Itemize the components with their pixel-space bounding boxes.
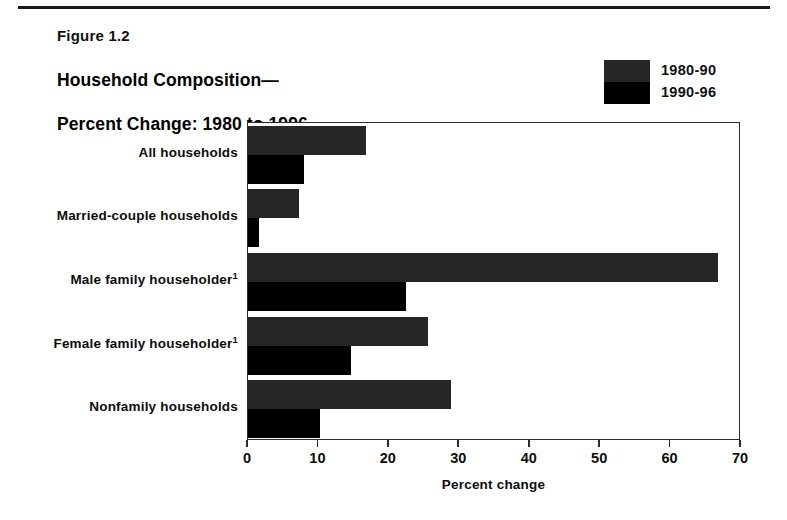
bar-female-family-householder-1980-90 bbox=[248, 317, 428, 346]
x-tick-mark-50 bbox=[598, 440, 600, 447]
x-tick-mark-10 bbox=[317, 440, 319, 447]
x-tick-mark-30 bbox=[457, 440, 459, 447]
x-axis-title: Percent change bbox=[247, 477, 740, 492]
top-rule-divider bbox=[18, 6, 770, 9]
category-label-married-couple-households: Married-couple households bbox=[0, 208, 238, 223]
bar-male-family-householder-1980-90 bbox=[248, 253, 718, 282]
bar-nonfamily-households-1990-96 bbox=[248, 409, 320, 438]
x-tick-label-40: 40 bbox=[509, 450, 549, 466]
x-tick-label-30: 30 bbox=[438, 450, 478, 466]
x-tick-mark-40 bbox=[528, 440, 530, 447]
bar-all-households-1990-96 bbox=[248, 155, 304, 184]
bar-nonfamily-households-1980-90 bbox=[248, 380, 451, 409]
x-tick-label-70: 70 bbox=[720, 450, 760, 466]
figure-container: Figure 1.2 Household Composition— Percen… bbox=[0, 0, 787, 520]
category-label-all-households: All households bbox=[0, 145, 238, 160]
x-tick-mark-20 bbox=[387, 440, 389, 447]
x-tick-label-0: 0 bbox=[227, 450, 267, 466]
x-tick-label-60: 60 bbox=[650, 450, 690, 466]
x-tick-mark-60 bbox=[669, 440, 671, 447]
category-axis-labels: All householdsMarried-couple householdsM… bbox=[0, 122, 238, 440]
figure-title-line-1: Household Composition— bbox=[57, 69, 487, 91]
x-tick-mark-0 bbox=[246, 440, 248, 447]
figure-number: Figure 1.2 bbox=[57, 26, 487, 45]
legend-swatch-1980-90 bbox=[604, 60, 650, 82]
chart-legend: 1980-90 1990-96 bbox=[604, 59, 716, 104]
category-label-nonfamily-households: Nonfamily households bbox=[0, 399, 238, 414]
bar-female-family-householder-1990-96 bbox=[248, 346, 351, 375]
bar-all-households-1980-90 bbox=[248, 126, 366, 155]
bars-layer bbox=[248, 123, 739, 439]
category-label-male-family-householder: Male family householder1 bbox=[0, 272, 238, 287]
legend-label-1980-90: 1980-90 bbox=[661, 59, 716, 81]
legend-label-1990-96: 1990-96 bbox=[661, 81, 716, 103]
x-tick-label-10: 10 bbox=[297, 450, 337, 466]
x-tick-mark-70 bbox=[739, 440, 741, 447]
legend-swatch-group bbox=[604, 60, 650, 104]
x-tick-label-50: 50 bbox=[579, 450, 619, 466]
plot-area bbox=[247, 122, 740, 440]
category-label-female-family-householder: Female family householder1 bbox=[0, 336, 238, 351]
bar-male-family-householder-1990-96 bbox=[248, 282, 406, 311]
bar-married-couple-households-1980-90 bbox=[248, 189, 299, 218]
footnote-marker: 1 bbox=[233, 270, 238, 281]
legend-label-group: 1980-90 1990-96 bbox=[661, 59, 716, 103]
x-tick-label-20: 20 bbox=[368, 450, 408, 466]
footnote-marker: 1 bbox=[233, 333, 238, 344]
legend-swatch-1990-96 bbox=[604, 82, 650, 104]
bar-married-couple-households-1990-96 bbox=[248, 218, 259, 247]
